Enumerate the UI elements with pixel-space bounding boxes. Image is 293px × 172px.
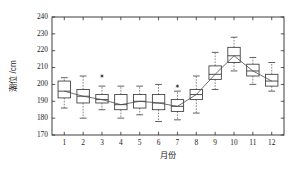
x-tick-label: 5 <box>138 138 142 147</box>
boxplot-figure: 170180190200210220230240 123456789101112… <box>0 0 293 172</box>
y-tick-label: 170 <box>37 130 48 139</box>
chart-canvas: 170180190200210220230240 123456789101112… <box>0 0 293 172</box>
x-tick-label: 11 <box>249 138 256 147</box>
x-axis-title: 月份 <box>160 150 176 160</box>
x-tick-label: 12 <box>268 138 276 147</box>
outlier-marker <box>100 74 103 77</box>
y-tick-label: 230 <box>37 29 48 38</box>
x-tick-label: 3 <box>100 138 104 147</box>
x-tick-label: 1 <box>62 138 66 147</box>
y-tick-label: 190 <box>37 96 48 105</box>
y-tick-label: 220 <box>37 45 48 54</box>
y-tick-label: 240 <box>37 12 48 21</box>
y-tick-label: 180 <box>37 113 48 122</box>
x-tick-label: 6 <box>157 138 161 147</box>
x-tick-label: 10 <box>230 138 238 147</box>
y-axis-title: 潮位 /cm <box>8 60 18 92</box>
outlier-marker <box>176 85 179 88</box>
x-tick-label: 4 <box>119 138 123 147</box>
x-tick-label: 2 <box>81 138 85 147</box>
y-tick-label: 200 <box>37 79 48 88</box>
x-tick-label: 7 <box>176 138 180 147</box>
x-tick-label: 9 <box>213 138 217 147</box>
x-tick-label: 8 <box>194 138 198 147</box>
y-tick-label: 210 <box>37 62 48 71</box>
